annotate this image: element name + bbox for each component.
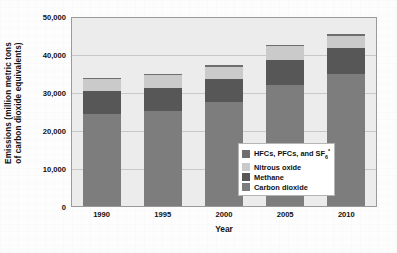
x-tick-label-2000: 2000 — [205, 210, 243, 219]
legend-item-hfcs-pfcs-sf6[interactable]: HFCs, PFCs, and SF6* — [242, 147, 330, 162]
segment-methane-1995 — [144, 88, 182, 112]
x-axis-tick-labels: 1990 1995 2000 2005 2010 — [71, 210, 377, 222]
bar-1990[interactable] — [83, 18, 121, 206]
segment-methane-1990 — [83, 91, 121, 115]
y-tick-label-40000: 40,000 — [6, 51, 66, 60]
segment-nitrous-2010 — [327, 36, 365, 48]
segment-nitrous-1990 — [83, 79, 121, 91]
y-axis-title-line2: of carbon dioxide equivalents) — [14, 42, 24, 164]
segment-nitrous-1995 — [144, 75, 182, 88]
x-axis-title: Year — [71, 224, 377, 234]
bar-1995[interactable] — [144, 18, 182, 206]
y-axis-title-line1: Emissions (million metric tons — [4, 42, 14, 164]
legend-item-methane[interactable]: Methane — [242, 173, 330, 182]
segment-nitrous-2005 — [266, 46, 304, 60]
legend-label-carbon-dioxide: Carbon dioxide — [254, 183, 308, 192]
segment-co2-1990 — [83, 114, 121, 206]
x-tick-label-1995: 1995 — [144, 210, 182, 219]
y-tick-label-30000: 30,000 — [6, 89, 66, 98]
segment-co2-1995 — [144, 111, 182, 206]
legend-swatch-hfcs-pfcs-sf6 — [242, 150, 250, 158]
legend-label-nitrous-oxide: Nitrous oxide — [254, 163, 301, 172]
legend-label-methane: Methane — [254, 173, 284, 182]
y-tick-label-20000: 20,000 — [6, 127, 66, 136]
segment-nitrous-2000 — [205, 67, 243, 80]
y-tick-label-50000: 50,000 — [6, 13, 66, 22]
x-tick-label-2005: 2005 — [266, 210, 304, 219]
emissions-stacked-bar-chart: Emissions (million metric tons of carbon… — [0, 0, 397, 253]
y-axis-title: Emissions (million metric tons of carbon… — [2, 18, 26, 188]
legend-label-hfcs-pfcs-sf6: HFCs, PFCs, and SF6* — [254, 147, 330, 162]
y-tick-label-10000: 10,000 — [6, 165, 66, 174]
legend-item-carbon-dioxide[interactable]: Carbon dioxide — [242, 183, 330, 192]
y-tick-label-0: 0 — [6, 203, 66, 212]
segment-methane-2010 — [327, 48, 365, 74]
legend-swatch-carbon-dioxide — [242, 183, 250, 191]
x-tick-label-2010: 2010 — [327, 210, 365, 219]
chart-legend: HFCs, PFCs, and SF6* Nitrous oxide Metha… — [238, 143, 335, 196]
segment-methane-2000 — [205, 79, 243, 102]
legend-swatch-nitrous-oxide — [242, 163, 250, 171]
segment-methane-2005 — [266, 60, 304, 86]
x-tick-label-1990: 1990 — [83, 210, 121, 219]
legend-item-nitrous-oxide[interactable]: Nitrous oxide — [242, 163, 330, 172]
legend-swatch-methane — [242, 173, 250, 181]
